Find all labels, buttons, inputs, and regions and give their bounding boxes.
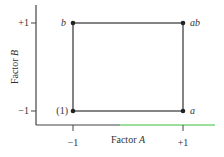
y-tick-label-minus1: −1	[18, 105, 29, 116]
corner-point-b	[71, 21, 76, 26]
design-square	[73, 23, 183, 111]
x-tick-label-minus1: −1	[68, 137, 79, 148]
factorial-diagram: +1 −1 −1 +1 Factor A Factor B b ab (1) a	[0, 0, 224, 157]
x-axis-title: Factor A	[111, 134, 146, 145]
corner-point-one	[71, 109, 76, 114]
corner-label-one: (1)	[56, 105, 68, 117]
x-tick-label-plus1: +1	[178, 137, 189, 148]
corner-label-ab: ab	[190, 17, 200, 28]
corner-label-a: a	[190, 105, 195, 116]
corner-label-b: b	[61, 17, 66, 28]
corner-point-a	[181, 109, 186, 114]
y-axis-title: Factor B	[9, 50, 20, 84]
corner-point-ab	[181, 21, 186, 26]
y-tick-label-plus1: +1	[18, 17, 29, 28]
